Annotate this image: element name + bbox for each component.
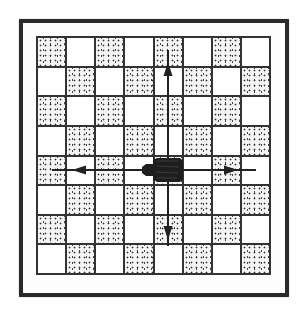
arrow-right-icon bbox=[224, 166, 238, 175]
arrow-up-icon bbox=[164, 62, 173, 76]
arrow-down-icon bbox=[164, 226, 173, 240]
rook-piece-icon bbox=[142, 158, 183, 182]
arrow-left-icon bbox=[72, 166, 86, 175]
movement-arrows bbox=[0, 0, 306, 315]
